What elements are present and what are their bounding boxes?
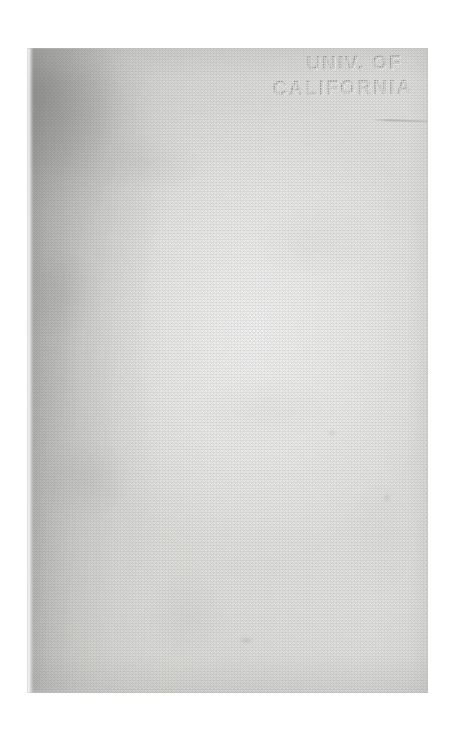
scan-bed-margin-right — [428, 0, 449, 749]
scan-bed-margin-top — [0, 0, 449, 48]
scanned-page-canvas: UNIV. OF CALIFORNIA — [0, 0, 449, 749]
page-sheet: UNIV. OF CALIFORNIA — [27, 48, 428, 693]
page-edge-highlight — [27, 48, 34, 693]
edge-vignette — [27, 48, 428, 693]
scan-bed-margin-bottom — [0, 693, 449, 749]
scan-bed-margin-left — [0, 0, 27, 749]
